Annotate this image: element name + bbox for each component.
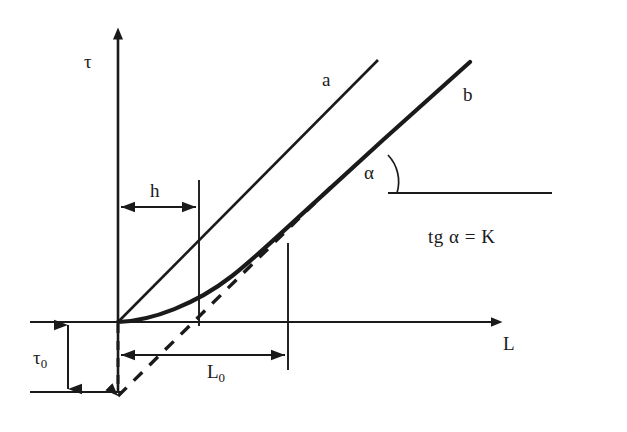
dimension-label-l0: L0: [207, 362, 225, 385]
diagram-vector-layer: [0, 0, 627, 432]
alpha-arc: [388, 155, 399, 193]
dimension-label-l0-subscript: 0: [219, 370, 225, 385]
dimension-label-h: h: [150, 181, 160, 200]
curve-b-label: b: [463, 85, 473, 104]
alpha-angle-label: α: [364, 163, 374, 182]
y-axis-label: τ: [84, 52, 92, 71]
x-axis-label: L: [503, 334, 515, 353]
dimension-label-tau0: τ0: [33, 348, 47, 371]
dimension-label-tau0-subscript: 0: [41, 356, 47, 371]
line-a-label: a: [322, 70, 330, 89]
diagram-canvas: τ L a b h L0 τ0 α tg α = K: [0, 0, 627, 432]
tangent-formula-label: tg α = K: [428, 227, 495, 246]
dimension-label-tau0-base: τ: [33, 347, 41, 368]
dimension-label-l0-base: L: [207, 361, 219, 382]
